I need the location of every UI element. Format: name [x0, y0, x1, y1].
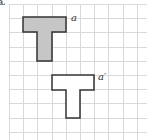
- shape-a-prime: [52, 75, 94, 118]
- shape-a-prime-label: a′: [98, 71, 106, 82]
- shape-a: [23, 17, 66, 61]
- shape-a-label: a: [71, 12, 77, 23]
- grid-diagram: a. a a′: [0, 0, 147, 140]
- question-label: a.: [0, 0, 6, 7]
